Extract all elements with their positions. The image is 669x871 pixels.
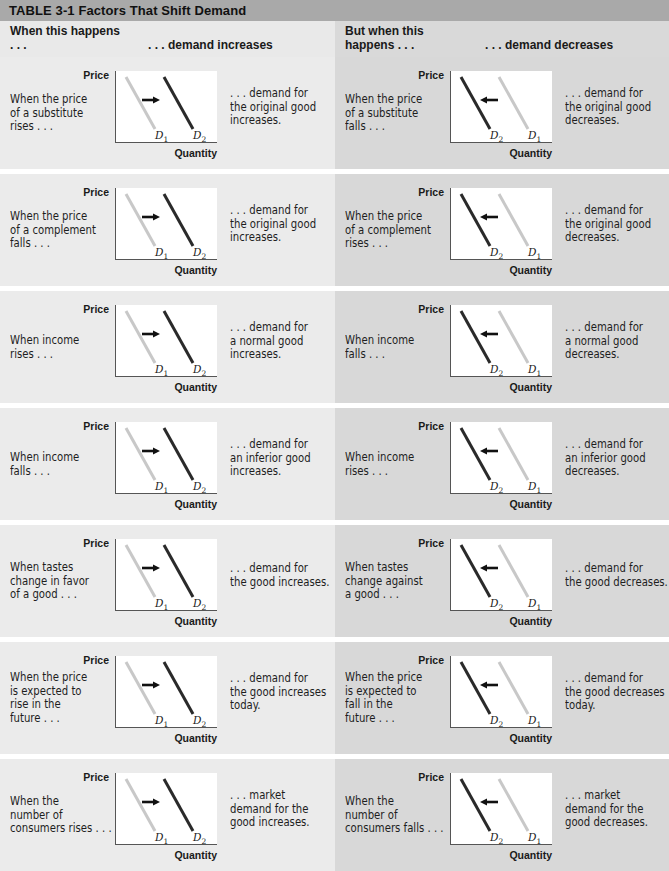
curve-label-d1: D1 — [527, 129, 541, 144]
curves: D1D2 — [115, 539, 217, 613]
curve-label-d2: D2 — [192, 831, 206, 846]
curves: D1D2 — [115, 71, 217, 145]
x-axis-label: Quantity — [509, 615, 552, 627]
x-axis-label: Quantity — [174, 498, 217, 510]
y-axis-label: Price — [83, 654, 109, 666]
shifted-demand-curve — [164, 662, 193, 714]
y-axis-label: Price — [418, 69, 444, 81]
curve-label-d1: D1 — [527, 246, 541, 261]
demand-shift-graph: Price D1D2 Quantity — [113, 773, 217, 863]
shifted-demand-curve — [461, 194, 490, 246]
cause-text: When the price is expected to fall in th… — [345, 671, 451, 725]
x-axis-label: Quantity — [509, 849, 552, 861]
decrease-cell: When the price of a substitute falls . .… — [335, 57, 669, 169]
demand-shift-graph: Price D2D1 Quantity — [448, 773, 552, 863]
increase-cell: When the price of a substitute rises . .… — [0, 57, 335, 169]
cause-text: When the number of consumers falls . . . — [345, 795, 451, 836]
demand-shift-graph: Price D2D1 Quantity — [448, 305, 552, 395]
effect-text: . . . demand for the good decreases toda… — [565, 672, 669, 713]
curve-label-d1: D1 — [527, 714, 541, 729]
decrease-cell: When the number of consumers falls . . .… — [335, 759, 669, 871]
table-row-6: When the price is expected to rise in th… — [0, 642, 669, 754]
y-axis-label: Price — [418, 186, 444, 198]
table-row-7: When the number of consumers rises . . .… — [0, 759, 669, 871]
effect-text: . . . demand for an inferior good decrea… — [565, 438, 669, 479]
decrease-cell: When income falls . . . Price D2D1 Quant… — [335, 291, 669, 403]
increase-cell: When tastes change in favor of a good . … — [0, 525, 335, 637]
shifted-demand-curve — [164, 194, 193, 246]
curve-label-d1: D1 — [154, 831, 168, 846]
header-when-label: But when this happens . . . — [345, 24, 455, 52]
cause-text: When income falls . . . — [345, 334, 451, 361]
shifted-demand-curve — [461, 545, 490, 597]
curves: D1D2 — [115, 305, 217, 379]
curve-label-d1: D1 — [154, 363, 168, 378]
curve-label-d2: D2 — [192, 246, 206, 261]
curves: D2D1 — [450, 188, 552, 262]
shifted-demand-curve — [461, 77, 490, 129]
arrow-right-icon — [153, 682, 160, 689]
original-demand-curve — [499, 428, 528, 480]
shifted-demand-curve — [164, 311, 193, 363]
original-demand-curve — [499, 779, 528, 831]
curve-label-d2: D2 — [489, 363, 503, 378]
cause-text: When income rises . . . — [345, 451, 451, 478]
curve-label-d1: D1 — [527, 363, 541, 378]
arrow-right-icon — [153, 448, 160, 455]
demand-shift-graph: Price D2D1 Quantity — [448, 656, 552, 746]
effect-text: . . . demand for the good increases. — [230, 562, 336, 589]
arrow-left-icon — [480, 682, 487, 689]
original-demand-curve — [126, 662, 155, 714]
shifted-demand-curve — [461, 428, 490, 480]
cause-text: When tastes change against a good . . . — [345, 561, 451, 602]
cause-text: When the price of a substitute rises . .… — [10, 93, 116, 134]
curves: D2D1 — [450, 422, 552, 496]
x-axis-label: Quantity — [509, 264, 552, 276]
curve-label-d1: D1 — [154, 246, 168, 261]
curve-label-d2: D2 — [192, 363, 206, 378]
curve-label-d2: D2 — [489, 246, 503, 261]
header-decrease-column: But when this happens . . . . . . demand… — [335, 21, 669, 57]
effect-text: . . . demand for the original good incre… — [230, 87, 336, 128]
curve-label-d2: D2 — [489, 597, 503, 612]
original-demand-curve — [126, 194, 155, 246]
arrow-left-icon — [480, 214, 487, 221]
curve-label-d1: D1 — [154, 714, 168, 729]
curves: D2D1 — [450, 305, 552, 379]
x-axis-label: Quantity — [509, 498, 552, 510]
table-row-5: When tastes change in favor of a good . … — [0, 525, 669, 637]
effect-text: . . . demand for the original good decre… — [565, 204, 669, 245]
x-axis-label: Quantity — [174, 849, 217, 861]
effect-text: . . . demand for the good increases toda… — [230, 672, 336, 713]
arrow-right-icon — [153, 331, 160, 338]
arrow-left-icon — [480, 97, 487, 104]
cause-text: When income rises . . . — [10, 334, 116, 361]
header-result-label: . . . demand decreases — [485, 38, 613, 52]
x-axis-label: Quantity — [509, 732, 552, 744]
curve-label-d2: D2 — [489, 714, 503, 729]
demand-shift-graph: Price D1D2 Quantity — [113, 539, 217, 629]
shifted-demand-curve — [164, 77, 193, 129]
increase-cell: When income falls . . . Price D1D2 Quant… — [0, 408, 335, 520]
effect-text: . . . demand for an inferior good increa… — [230, 438, 336, 479]
curves: D2D1 — [450, 71, 552, 145]
shifted-demand-curve — [461, 779, 490, 831]
table-title: TABLE 3-1 Factors That Shift Demand — [9, 3, 246, 18]
original-demand-curve — [126, 311, 155, 363]
decrease-cell: When income rises . . . Price D2D1 Quant… — [335, 408, 669, 520]
curves: D2D1 — [450, 656, 552, 730]
header-result-label: . . . demand increases — [148, 38, 273, 52]
curves: D1D2 — [115, 188, 217, 262]
arrow-right-icon — [153, 565, 160, 572]
effect-text: . . . demand for the original good incre… — [230, 204, 336, 245]
x-axis-label: Quantity — [174, 147, 217, 159]
curves: D2D1 — [450, 539, 552, 613]
effect-text: . . . market demand for the good increas… — [230, 789, 336, 830]
y-axis-label: Price — [83, 537, 109, 549]
y-axis-label: Price — [418, 771, 444, 783]
shifted-demand-curve — [461, 662, 490, 714]
original-demand-curve — [126, 428, 155, 480]
curve-label-d2: D2 — [192, 597, 206, 612]
decrease-cell: When the price is expected to fall in th… — [335, 642, 669, 754]
y-axis-label: Price — [418, 537, 444, 549]
